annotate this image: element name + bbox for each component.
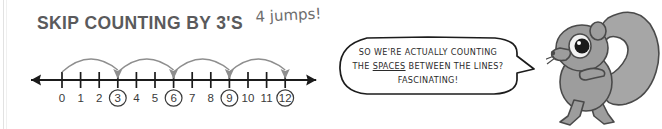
bubble-line-2-pre: THE	[353, 61, 373, 71]
bubble-line-2: THE SPACES BETWEEN THE LINES?	[353, 59, 504, 73]
scan-edge-line-secondary	[6, 0, 7, 129]
squirrel-eye-highlight	[577, 41, 581, 45]
jump-arrowhead	[225, 69, 234, 79]
axis-tick-label: 3	[115, 92, 121, 104]
page-title: SKIP COUNTING BY 3'S	[37, 13, 243, 34]
axis-tick-label: 8	[208, 92, 214, 104]
speech-bubble: SO WE'RE ACTUALLY COUNTING THE SPACES BE…	[337, 36, 537, 96]
speech-bubble-text: SO WE'RE ACTUALLY COUNTING THE SPACES BE…	[337, 36, 519, 96]
jump-arc	[62, 59, 118, 72]
squirrel-eye-pupil	[575, 39, 590, 54]
jump-arrowhead	[281, 69, 290, 79]
squirrel-mascot	[546, 6, 662, 129]
jump-arc	[118, 59, 174, 72]
number-line-labels: 0123456789101112	[59, 92, 292, 104]
jump-arc	[174, 59, 230, 72]
bubble-line-3: FASCINATING!	[398, 73, 459, 87]
axis-tick-label: 2	[96, 92, 102, 104]
axis-tick-label: 9	[226, 92, 232, 104]
axis-tick-label: 1	[77, 92, 83, 104]
jump-arc	[229, 59, 285, 72]
squirrel-nose	[551, 51, 555, 55]
bubble-line-2-emphasis: SPACES	[373, 61, 406, 71]
axis-tick-label: 12	[279, 92, 292, 104]
axis-tick-label: 5	[152, 92, 158, 104]
axis-tick-label: 10	[242, 92, 255, 104]
worksheet-page: SKIP COUNTING BY 3'S 4 jumps! 0123456789…	[0, 0, 662, 129]
jump-arrowhead	[113, 69, 122, 79]
number-line-diagram: 0123456789101112	[14, 46, 344, 108]
axis-left-arrowhead	[31, 75, 41, 86]
squirrel-svg	[546, 6, 662, 129]
axis-right-arrowhead	[306, 75, 316, 86]
axis-tick-label: 6	[170, 92, 176, 104]
number-line-jump-arcs	[62, 59, 290, 79]
squirrel-ear	[590, 22, 606, 40]
bubble-line-2-post: BETWEEN THE LINES?	[406, 61, 504, 71]
axis-tick-label: 0	[59, 92, 65, 104]
axis-tick-label: 4	[133, 92, 140, 104]
axis-tick-label: 11	[261, 92, 273, 104]
handwritten-annotation: 4 jumps!	[255, 5, 322, 26]
axis-tick-label: 7	[189, 92, 195, 104]
number-line-svg: 0123456789101112	[14, 46, 344, 108]
scan-edge-line	[3, 0, 4, 129]
jump-arrowhead	[169, 69, 178, 79]
squirrel-front-leg	[560, 100, 584, 125]
bubble-line-1: SO WE'RE ACTUALLY COUNTING	[359, 45, 497, 59]
